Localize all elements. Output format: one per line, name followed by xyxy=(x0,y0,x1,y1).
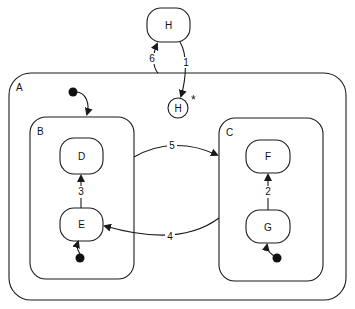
initial-c xyxy=(267,245,282,263)
state-d-label: D xyxy=(78,151,85,162)
transition-3-label: 3 xyxy=(78,186,84,197)
initial-b xyxy=(76,242,85,263)
state-f[interactable]: F xyxy=(246,140,290,173)
transition-2[interactable]: 2 xyxy=(263,175,273,210)
transition-6[interactable]: 6 xyxy=(147,44,158,73)
state-f-label: F xyxy=(265,151,271,162)
statechart-diagram: A B C H H * D E F G xyxy=(0,0,355,309)
history-state-label: H xyxy=(174,103,181,114)
state-b-label: B xyxy=(37,126,44,137)
state-c[interactable]: C xyxy=(219,118,323,281)
state-h-top[interactable]: H xyxy=(147,8,190,42)
state-h-top-label: H xyxy=(165,20,172,31)
transition-3[interactable]: 3 xyxy=(76,176,86,208)
state-g-label: G xyxy=(264,222,272,233)
transition-2-label: 2 xyxy=(265,186,271,197)
transition-5-label: 5 xyxy=(169,140,175,151)
state-a-label: A xyxy=(16,82,23,93)
state-e-label: E xyxy=(78,219,85,230)
state-e[interactable]: E xyxy=(60,208,103,241)
history-state[interactable]: H * xyxy=(168,93,196,118)
transition-4[interactable]: 4 xyxy=(105,218,219,243)
state-d[interactable]: D xyxy=(60,138,103,174)
transition-4-label: 4 xyxy=(167,231,173,242)
transition-5[interactable]: 5 xyxy=(134,140,217,157)
transition-1[interactable]: 1 xyxy=(180,42,190,96)
state-c-label: C xyxy=(226,127,233,138)
state-g[interactable]: G xyxy=(246,210,290,243)
initial-a xyxy=(69,88,88,115)
transition-1-label: 1 xyxy=(183,57,189,68)
transition-6-label: 6 xyxy=(149,53,155,64)
history-deep-marker: * xyxy=(191,93,196,107)
